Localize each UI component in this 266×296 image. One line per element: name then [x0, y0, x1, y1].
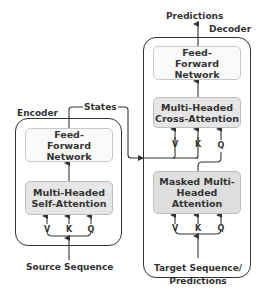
cross-v-label: V	[170, 140, 180, 149]
decoder-cross-attention-label: Multi-Headed Cross-Attention	[154, 102, 240, 124]
cross-q-label: Q	[216, 141, 226, 150]
encoder-self-attention-box: Multi-Headed Self-Attention	[25, 181, 113, 215]
decoder-ffn-label: Feed-Forward Network	[162, 47, 232, 80]
decoder-masked-attention-label: Masked Multi-Headed Attention	[157, 176, 237, 209]
encoder-v-label: V	[42, 225, 52, 234]
decoder-input-label: Target Sequence/ Predictions	[150, 262, 246, 288]
encoder-attention-label: Multi-Headed Self-Attention	[29, 187, 109, 209]
encoder-title: Encoder	[17, 108, 58, 118]
decoder-output-label: Predictions	[166, 11, 223, 21]
masked-v-label: V	[170, 224, 180, 233]
encoder-feed-forward-box: Feed-Forward Network	[25, 128, 113, 162]
decoder-title: Decoder	[209, 24, 251, 34]
encoder-q-label: Q	[86, 225, 96, 234]
encoder-ffn-label: Feed-Forward Network	[34, 129, 104, 162]
encoder-input-label: Source Sequence	[26, 262, 113, 272]
masked-q-label: Q	[216, 224, 226, 233]
decoder-feed-forward-box: Feed-Forward Network	[153, 46, 241, 80]
masked-k-label: K	[193, 224, 203, 233]
decoder-masked-attention-box: Masked Multi-Headed Attention	[153, 171, 241, 214]
encoder-k-label: K	[64, 225, 74, 234]
states-label: States	[83, 102, 118, 112]
cross-k-label: K	[193, 140, 203, 149]
decoder-cross-attention-box: Multi-Headed Cross-Attention	[153, 97, 241, 128]
